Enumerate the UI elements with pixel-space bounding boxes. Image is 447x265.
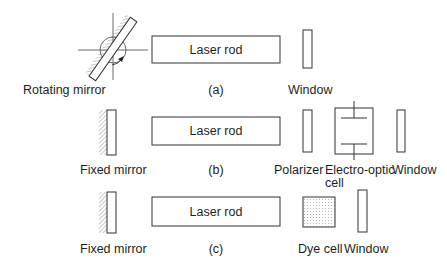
window-a [303, 30, 312, 68]
fixed-mirror-b-label: Fixed mirror [80, 164, 147, 177]
rotating-mirror [78, 13, 148, 81]
rotation-arrow-icon [118, 56, 124, 62]
window-b-label: Window [392, 164, 436, 177]
window-c [358, 190, 367, 232]
mirror-hatch [85, 14, 130, 76]
rotating-mirror-label: Rotating mirror [23, 84, 106, 97]
fixed-mirror-b [99, 110, 116, 155]
polarizer [303, 110, 312, 152]
caption-a: (a) [208, 84, 223, 97]
electro-optic-cell [335, 101, 373, 160]
caption-b: (b) [208, 164, 223, 177]
laser-rod-b-label: Laser rod [190, 125, 243, 138]
dye-cell-label: Dye cell [298, 243, 342, 256]
fixed-mirror-c [99, 192, 116, 233]
electro-optic-label-line2: cell [325, 177, 344, 190]
dye-cell [303, 197, 335, 227]
panel-b [99, 101, 405, 160]
laser-rod-c-label: Laser rod [190, 206, 243, 219]
fixed-mirror-c-label: Fixed mirror [80, 243, 147, 256]
polarizer-label: Polarizer [274, 164, 323, 177]
window-c-label: Window [344, 243, 388, 256]
window-b [397, 110, 405, 152]
window-a-label: Window [288, 84, 332, 97]
laser-rod-a-label: Laser rod [190, 44, 243, 57]
caption-c: (c) [209, 243, 224, 256]
